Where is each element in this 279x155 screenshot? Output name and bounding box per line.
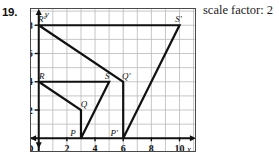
vertex-label-S-prime: S' [175,14,183,24]
vertex-label-R: R [38,71,45,81]
vertex-label-Q-prime: Q' [122,71,131,81]
x-tick-label: 8 [149,143,154,151]
x-axis-label: x [186,144,191,151]
y-tick-label: 4 [31,76,33,87]
x-tick-label: 4 [93,143,98,151]
vertex-label-P: P [69,128,76,138]
figure-root: 19. scale factor: 2 2468102468Oxy PQRSP'… [0,0,279,155]
y-tick-label: 8 [31,20,33,31]
origin-label: O [31,143,34,151]
vertex-label-Q: Q [81,99,88,109]
vertex-label-S: S [105,71,110,81]
vertex-label-P-prime: P' [109,128,118,138]
vertex-labels: PQRSP'Q'R'S' [37,14,183,138]
x-tick-label: 6 [121,143,126,151]
x-tick-label: 10 [175,143,185,151]
x-tick-label: 2 [64,143,69,151]
coordinate-grid: 2468102468Oxy PQRSP'Q'R'S' [30,8,196,152]
problem-number: 19. [2,6,17,18]
coordinate-plot: 2468102468Oxy PQRSP'Q'R'S' [31,9,195,151]
y-tick-label: 2 [31,105,33,116]
y-tick-label: 6 [31,48,33,59]
scale-factor-caption: scale factor: 2 [203,3,273,18]
vertex-label-R-prime: R' [37,14,46,24]
